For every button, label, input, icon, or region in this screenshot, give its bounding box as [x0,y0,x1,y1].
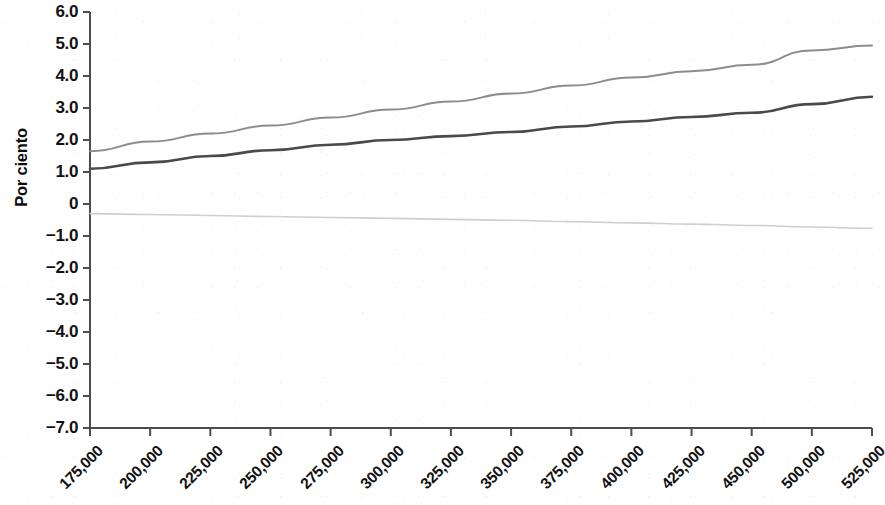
data-series-layer [90,46,872,229]
line-chart: Por ciento 6.05.04.03.02.01.00−1.0−2.0−3… [0,0,885,505]
data-line-lower [90,214,872,229]
plot-area [0,0,885,505]
x-axis-tick-marks [90,428,872,436]
y-axis-tick-marks [83,12,90,428]
